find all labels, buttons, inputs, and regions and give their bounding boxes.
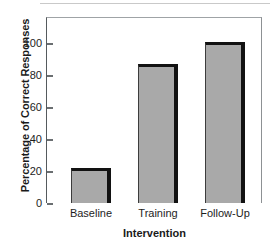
y-tick-label-100: 100 — [2, 38, 42, 49]
x-tick-label-training: Training — [128, 206, 188, 220]
y-tick-label-0: 0 — [2, 198, 42, 209]
y-axis-tick-labels: 0 20 40 60 80 100 — [0, 0, 42, 249]
scan-artifact-line — [40, 3, 270, 4]
x-tick-label-follow-up: Follow-Up — [195, 206, 255, 220]
bar-chart-figure: Percentage of Correct Responses 0 20 40 … — [0, 0, 277, 249]
x-axis-title: Intervention — [46, 227, 263, 240]
y-tick-label-60: 60 — [2, 102, 42, 113]
y-tick-mark-0 — [47, 203, 53, 205]
y-tick-label-80: 80 — [2, 70, 42, 81]
x-tick-label-baseline: Baseline — [61, 206, 121, 220]
bar-baseline — [71, 168, 111, 203]
bar-training — [138, 64, 178, 203]
y-tick-label-20: 20 — [2, 166, 42, 177]
y-tick-label-40: 40 — [2, 134, 42, 145]
bar-follow-up — [205, 42, 245, 203]
